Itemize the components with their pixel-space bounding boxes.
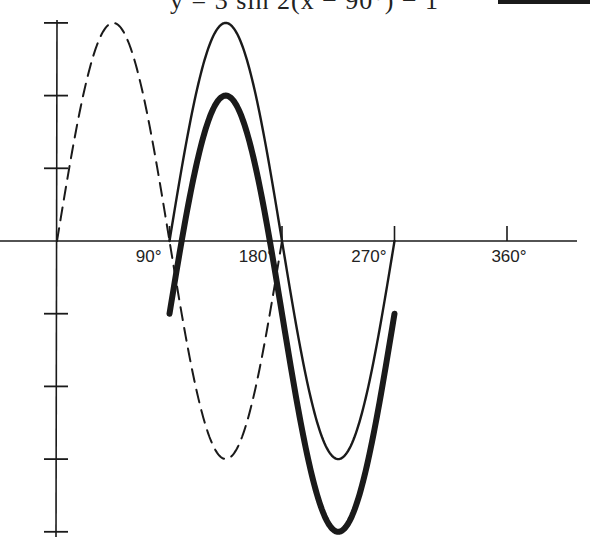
curves [57,23,395,532]
thick-curve [170,96,395,532]
x-tick-label: 90° [136,247,162,266]
x-tick-labels: 90°180°270°360° [136,247,527,266]
chart-plot: 90°180°270°360° [0,0,599,554]
x-tick-label: 270° [351,247,386,266]
x-tick-label: 360° [491,247,526,266]
